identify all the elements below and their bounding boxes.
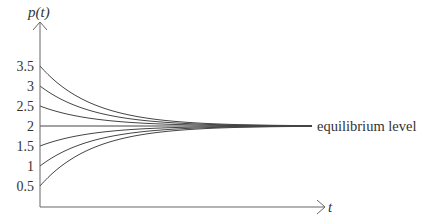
solution-curve xyxy=(40,86,312,126)
equilibrium-label: equilibrium level xyxy=(317,118,416,134)
y-tick-label: 2 xyxy=(27,119,34,134)
y-tick-label: 3.5 xyxy=(17,59,35,74)
y-tick-labels: 0.511.522.533.5 xyxy=(17,59,35,194)
y-axis-label: p(t) xyxy=(27,4,50,21)
y-tick-label: 0.5 xyxy=(17,179,35,194)
y-tick-label: 2.5 xyxy=(17,99,35,114)
y-tick-label: 1.5 xyxy=(17,139,35,154)
solution-curve xyxy=(40,126,312,166)
axes xyxy=(33,22,325,214)
y-tick-label: 3 xyxy=(27,79,34,94)
solution-curves xyxy=(40,66,312,186)
x-axis-label: t xyxy=(328,199,333,215)
chart: 0.511.522.533.5 p(t) t equilibrium level xyxy=(0,0,428,224)
y-tick-label: 1 xyxy=(27,159,34,174)
